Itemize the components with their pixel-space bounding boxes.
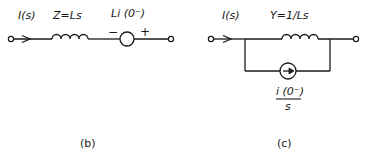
current-label-c: I(s) (222, 9, 240, 22)
current-source-label-denominator: s (285, 100, 291, 113)
output-terminal-b (168, 36, 173, 41)
inductor-icon (282, 35, 318, 40)
input-terminal-b (8, 36, 13, 41)
voltage-source-label: Li (0⁻) (111, 7, 145, 20)
current-label-b: I(s) (18, 9, 36, 22)
inductor-icon (52, 35, 88, 40)
caption-b: (b) (80, 137, 96, 150)
input-terminal-c (208, 36, 213, 41)
voltage-source-icon (120, 32, 134, 46)
minus-sign: − (108, 25, 118, 39)
current-source-icon (280, 63, 296, 79)
output-terminal-c (353, 36, 358, 41)
circuit-diagrams: I(s) Z=Ls Li (0⁻) − + (b) I(s) Y=1/Ls (0, 0, 369, 154)
current-source-label-numerator: i (0⁻) (276, 85, 304, 98)
figure-b: I(s) Z=Ls Li (0⁻) − + (b) (8, 7, 173, 150)
figure-c: I(s) Y=1/Ls i (0⁻) s (c) (208, 9, 358, 150)
caption-c: (c) (277, 137, 292, 150)
admittance-label: Y=1/Ls (270, 9, 309, 22)
plus-sign: + (140, 25, 150, 39)
impedance-label: Z=Ls (52, 9, 82, 22)
